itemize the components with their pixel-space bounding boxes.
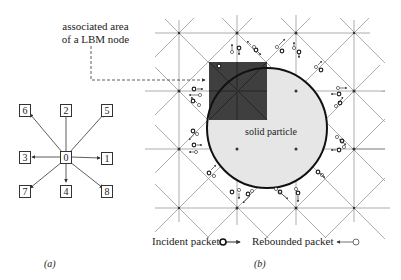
direction-box-8: 8 <box>101 185 113 198</box>
direction-box-5: 5 <box>101 104 113 117</box>
legend-incident-label: Incident packet <box>152 235 220 247</box>
particle-label: solid particle <box>245 125 297 138</box>
d2q9-diagram <box>30 112 104 188</box>
direction-box-7: 7 <box>19 185 31 198</box>
incident-packet-icon <box>220 239 226 245</box>
legend-rebounded-label: Rebounded packet <box>252 235 334 247</box>
direction-box-0: 0 <box>60 151 72 164</box>
direction-box-4: 4 <box>60 185 72 198</box>
annotation-pointer <box>91 46 205 80</box>
direction-box-1: 1 <box>101 152 113 165</box>
direction-box-2: 2 <box>60 104 72 117</box>
direction-box-3: 3 <box>19 151 31 164</box>
caption-b: (b) <box>254 258 266 269</box>
rebounded-packet-icon <box>353 239 359 245</box>
direction-box-6: 6 <box>19 104 31 117</box>
caption-a: (a) <box>44 258 56 269</box>
